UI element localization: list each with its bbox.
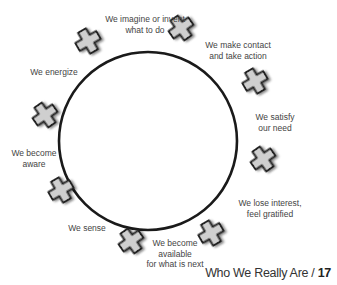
cross-icon [28,98,61,131]
step-label-line: our need [255,123,294,134]
cross-icon [72,25,105,58]
step-label-line: We lose interest, [238,198,301,209]
step-label-line: feel gratified [238,209,301,220]
step-label-line: and take action [205,51,271,62]
step-label: We lose interest,feel gratified [238,198,301,219]
step-label-line: We sense [68,223,106,234]
step-label-line: aware [11,159,56,170]
cycle-circle [59,52,237,230]
step-label-line: We energize [30,67,78,78]
step-label-line: We make contact [205,40,271,51]
cross-icon [246,142,279,175]
step-label-line: available [146,249,203,260]
step-label: We imagine or inventwhat to do [105,14,185,35]
step-label-line: We imagine or invent [105,14,185,25]
step-label: We becomeavailablefor what is next [146,238,203,270]
footer-title: Who We Really Are / [205,266,318,280]
step-label: We becomeaware [11,148,56,169]
step-label-line: for what is next [146,259,203,270]
step-label-line: We satisfy [255,112,294,123]
step-label: We energize [30,67,78,78]
step-label-line: what to do [105,25,185,36]
step-label: We sense [68,223,106,234]
cross-icon [239,65,272,98]
page-number: 17 [318,266,331,280]
page-footer: Who We Really Are / 17 [205,266,331,280]
step-label: We make contactand take action [205,40,271,61]
step-label-line: We become [146,238,203,249]
step-label-line: We become [11,148,56,159]
step-label: We satisfyour need [255,112,294,133]
